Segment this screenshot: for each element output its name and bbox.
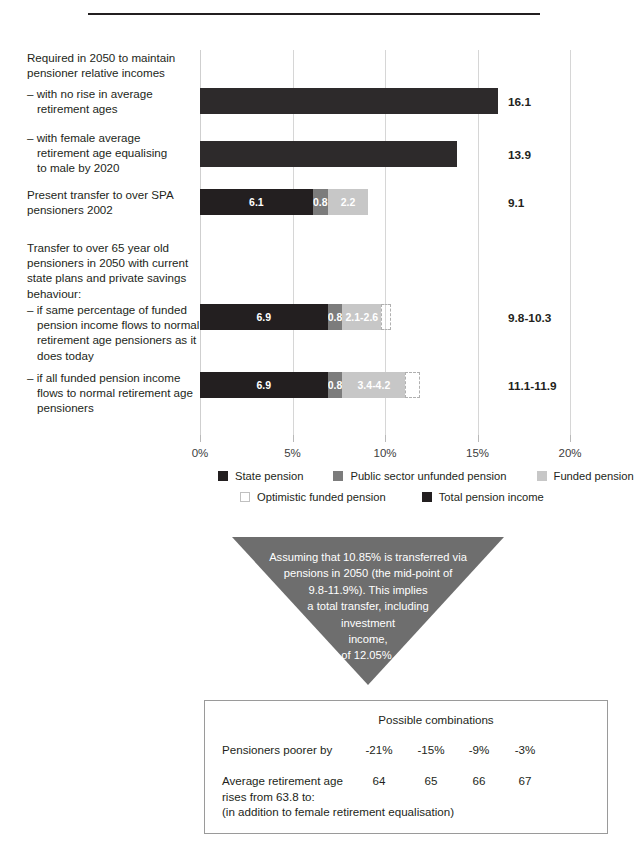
row-label-2-line-2: retirement age equalising bbox=[37, 145, 209, 160]
legend-row-2: Optimistic funded pension Total pension … bbox=[0, 491, 628, 503]
group-heading-2-line-1: Transfer to over 65 year old bbox=[27, 240, 199, 255]
row-label-4-line-4: does today bbox=[37, 348, 209, 363]
xtick-label-15: 15% bbox=[466, 447, 489, 459]
bar-segment-state: 6.1 bbox=[200, 189, 313, 215]
legend-label: Optimistic funded pension bbox=[257, 491, 386, 503]
tick-15 bbox=[478, 435, 479, 442]
bar-value-2: 13.9 bbox=[508, 148, 531, 162]
row-label-3: Present transfer to over SPA pensioners … bbox=[27, 187, 199, 217]
funnel-line-3: 9.8-11.9%). This implies bbox=[232, 582, 504, 598]
legend-item-public-sector-unfunded-pension[interactable]: Public sector unfunded pension bbox=[333, 470, 506, 482]
funnel-line-5: investment bbox=[232, 615, 504, 631]
row-label-1: – with no rise in average retirement age… bbox=[27, 86, 209, 116]
bar-row-3[interactable]: 6.1 0.8 2.2 bbox=[200, 189, 368, 215]
row-label-5: – if all funded pension income flows to … bbox=[27, 370, 209, 416]
legend-item-funded-pension[interactable]: Funded pension bbox=[537, 470, 634, 482]
cell-age-1: 64 bbox=[373, 773, 386, 789]
header-rule bbox=[88, 13, 540, 15]
bar-row-2[interactable] bbox=[200, 141, 457, 167]
funnel-callout: Assuming that 10.85% is transferred via … bbox=[232, 537, 504, 685]
funnel-line-2: pensions in 2050 (the mid-point of bbox=[232, 565, 504, 581]
cell-age-2: 65 bbox=[425, 773, 438, 789]
cell-age-4: 67 bbox=[519, 773, 532, 789]
legend-swatch-icon bbox=[333, 471, 343, 481]
legend-row-1: State pension Public sector unfunded pen… bbox=[0, 470, 628, 482]
bar-segment-funded: 2.1-2.6 bbox=[342, 304, 381, 330]
row-label-3-line-2: pensioners 2002 bbox=[27, 202, 199, 217]
funnel-text: Assuming that 10.85% is transferred via … bbox=[232, 549, 504, 664]
bar-segment-public: 0.8 bbox=[313, 189, 328, 215]
box-title-text: Possible combinations bbox=[320, 713, 493, 726]
group-heading-2-line-3: state plans and private savings bbox=[27, 270, 199, 285]
group-heading-2-line-2: pensioners in 2050 with current bbox=[27, 255, 199, 270]
row-label: Pensioners poorer by bbox=[222, 742, 332, 758]
row-label-2-line-3: to male by 2020 bbox=[37, 160, 209, 175]
tick-10 bbox=[385, 435, 386, 442]
row-label-5-line-1: – if all funded pension income bbox=[37, 370, 209, 385]
box-title: Possible combinations bbox=[205, 713, 609, 726]
bar-value-1: 16.1 bbox=[508, 95, 531, 109]
legend-label: Total pension income bbox=[439, 491, 544, 503]
possible-combinations-box: Possible combinations Pensioners poorer … bbox=[204, 700, 608, 834]
gridline-20 bbox=[570, 50, 571, 435]
table-row-pensioners-poorer: Pensioners poorer by -21% -15% -9% -3% bbox=[222, 742, 592, 758]
xtick-label-0: 0% bbox=[192, 447, 209, 459]
bar-row-4[interactable]: 6.9 0.8 2.1-2.6 bbox=[200, 304, 391, 330]
row-label-1-line-2: retirement ages bbox=[37, 101, 209, 116]
bar-value-4: 9.8-10.3 bbox=[508, 311, 551, 325]
box-note: (in addition to female retirement equali… bbox=[222, 805, 454, 818]
xtick-label-20: 20% bbox=[558, 447, 581, 459]
bar-segment-public: 0.8 bbox=[328, 372, 343, 398]
bar-value-3: 9.1 bbox=[508, 196, 524, 210]
bar-segment-optimistic bbox=[405, 372, 420, 398]
legend-swatch-icon bbox=[240, 492, 250, 502]
bar-segment-total bbox=[200, 141, 457, 167]
cell-poorer-2: -15% bbox=[417, 742, 444, 758]
legend-label: Funded pension bbox=[554, 470, 634, 482]
row-label-2-line-1: – with female average bbox=[37, 130, 209, 145]
group-heading-2-line-4: behaviour: bbox=[27, 286, 199, 301]
funnel-line-6: income, bbox=[232, 631, 504, 647]
bar-segment-funded: 2.2 bbox=[328, 189, 369, 215]
bar-segment-funded: 3.4-4.2 bbox=[342, 372, 405, 398]
tick-20 bbox=[570, 435, 571, 442]
group-heading-1-line-2: pensioner relative incomes bbox=[27, 65, 199, 80]
legend-item-state-pension[interactable]: State pension bbox=[218, 470, 303, 482]
bar-row-5[interactable]: 6.9 0.8 3.4-4.2 bbox=[200, 372, 420, 398]
funnel-line-7: of 12.05%. bbox=[232, 647, 504, 663]
row-label-4: – if same percentage of funded pension i… bbox=[27, 302, 209, 363]
legend-swatch-icon bbox=[218, 471, 228, 481]
row-label-4-line-1: – if same percentage of funded bbox=[37, 302, 209, 317]
legend-label: State pension bbox=[235, 470, 303, 482]
xtick-label-10: 10% bbox=[373, 447, 396, 459]
table-row-average-retirement-age: Average retirement age rises from 63.8 t… bbox=[222, 773, 592, 805]
group-heading-1-line-1: Required in 2050 to maintain bbox=[27, 50, 199, 65]
bar-segment-state: 6.9 bbox=[200, 304, 328, 330]
legend-swatch-icon bbox=[422, 492, 432, 502]
funnel-line-1: Assuming that 10.85% is transferred via bbox=[232, 549, 504, 565]
row-label-5-line-2: flows to normal retirement age bbox=[37, 385, 209, 400]
cell-age-3: 66 bbox=[473, 773, 486, 789]
row-label-3-line-1: Present transfer to over SPA bbox=[27, 187, 199, 202]
row-label-4-line-3: retirement age pensioners as it bbox=[37, 332, 209, 347]
bar-chart: 0% 5% 10% 15% 20% Required in 2050 to ma… bbox=[0, 50, 628, 470]
row-label-line-2: rises from 63.8 to: bbox=[222, 789, 315, 805]
bar-segment-state: 6.9 bbox=[200, 372, 328, 398]
tick-0 bbox=[200, 435, 201, 442]
row-label-2: – with female average retirement age equ… bbox=[27, 130, 209, 176]
chart-legend: State pension Public sector unfunded pen… bbox=[0, 470, 628, 503]
bar-value-5: 11.1-11.9 bbox=[508, 379, 557, 393]
legend-item-optimistic-funded-pension[interactable]: Optimistic funded pension bbox=[240, 491, 386, 503]
legend-label: Public sector unfunded pension bbox=[350, 470, 506, 482]
cell-poorer-3: -9% bbox=[469, 742, 490, 758]
legend-item-total-pension-income[interactable]: Total pension income bbox=[422, 491, 544, 503]
funnel-line-4: a total transfer, including bbox=[232, 598, 504, 614]
xtick-label-5: 5% bbox=[284, 447, 301, 459]
row-label-line-1: Average retirement age bbox=[222, 773, 343, 789]
row-label-4-line-2: pension income flows to normal bbox=[37, 317, 209, 332]
bar-segment-optimistic bbox=[381, 304, 390, 330]
group-heading-2: Transfer to over 65 year old pensioners … bbox=[27, 240, 199, 301]
group-heading-1: Required in 2050 to maintain pensioner r… bbox=[27, 50, 199, 80]
bar-row-1[interactable] bbox=[200, 88, 498, 114]
